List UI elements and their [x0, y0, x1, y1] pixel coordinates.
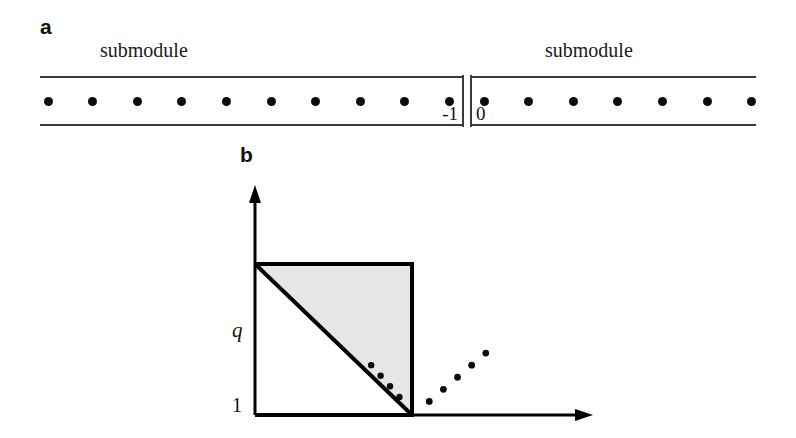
- site-dot: [569, 97, 578, 106]
- ellipsis-dot: [396, 394, 402, 400]
- site-dot-row-left: [40, 76, 464, 126]
- y-axis-arrowhead: [249, 185, 261, 203]
- site-dot: [267, 97, 276, 106]
- submodule-box-left: -1: [40, 76, 464, 126]
- figure-root: a submodule submodule -1 0 b q p 1: [0, 0, 796, 438]
- site-dot: [133, 97, 142, 106]
- submodule-title-right: submodule: [545, 40, 633, 60]
- site-dot: [88, 97, 97, 106]
- panel-a-label: a: [40, 16, 52, 37]
- outer-dot-sequence: [426, 350, 489, 405]
- site-dot: [311, 97, 320, 106]
- ellipsis-dot: [468, 362, 475, 369]
- ellipsis-dot: [454, 374, 461, 381]
- plot-svg: [225, 165, 625, 438]
- site-dot-row-right: [470, 76, 756, 126]
- site-dot: [703, 97, 712, 106]
- ellipsis-dot: [377, 373, 383, 379]
- ellipsis-dot: [482, 350, 489, 357]
- panel-b-label: b: [240, 144, 253, 165]
- x-axis-arrowhead: [575, 409, 593, 421]
- submodule-title-left: submodule: [100, 40, 188, 60]
- ellipsis-dot: [368, 362, 374, 368]
- site-dot: [613, 97, 622, 106]
- site-dot: [222, 97, 231, 106]
- submodule-box-right: 0: [470, 76, 756, 126]
- site-dot: [177, 97, 186, 106]
- ellipsis-dot: [387, 383, 393, 389]
- site-index-label-left: -1: [442, 104, 458, 123]
- phase-diagram-plot: [225, 165, 625, 438]
- ellipsis-dot: [440, 386, 447, 393]
- site-dot: [400, 97, 409, 106]
- site-dot: [356, 97, 365, 106]
- ellipsis-dot: [426, 398, 433, 405]
- site-index-label-right: 0: [476, 104, 486, 123]
- panel-b: b q p 1: [0, 140, 796, 438]
- site-dot: [658, 97, 667, 106]
- panel-a: a submodule submodule -1 0: [0, 0, 796, 140]
- site-dot: [44, 97, 53, 106]
- site-dot: [747, 97, 756, 106]
- site-dot: [524, 97, 533, 106]
